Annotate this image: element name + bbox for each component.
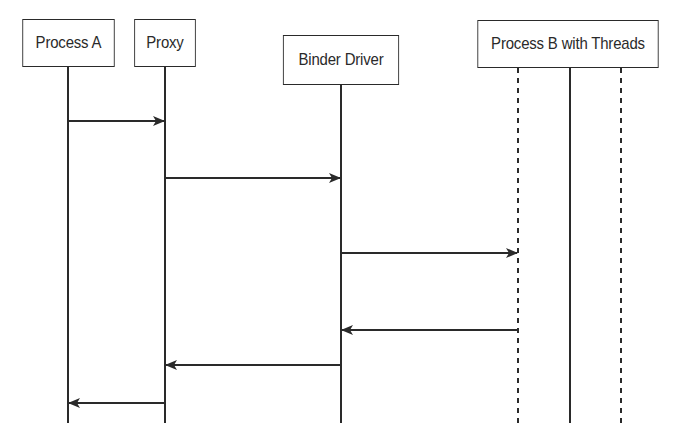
sequence-diagram — [0, 0, 687, 437]
